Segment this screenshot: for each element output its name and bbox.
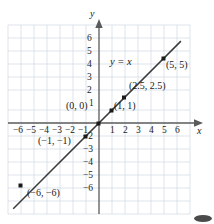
- x-tick-3: 3: [136, 126, 141, 136]
- data-point-two5: [122, 96, 126, 100]
- x-tick-neg6: −6: [13, 126, 23, 136]
- y-tick-5: 5: [87, 47, 92, 57]
- point-label-neg-one: (−1, −1): [38, 136, 71, 146]
- x-tick-1: 1: [110, 126, 115, 136]
- data-points: [19, 57, 166, 188]
- y-axis-label: y: [90, 9, 94, 19]
- x-tick-neg5: −5: [26, 126, 36, 136]
- point-label-one-one: (1, 1): [114, 101, 136, 111]
- data-point-neg6: [19, 184, 23, 188]
- y-tick-6: 6: [87, 34, 92, 44]
- y-tick-neg5: −5: [83, 171, 93, 181]
- point-label-origin: (0, 0): [66, 101, 88, 111]
- point-label-neg-six: (−6, −6): [27, 188, 60, 198]
- coordinate-plane-figure: 6 5 4 3 2 1 −2 −3 −4 −5 −6 −6 −5 −4 −3 −…: [0, 0, 214, 224]
- data-point-five: [162, 57, 166, 61]
- y-tick-4: 4: [87, 60, 92, 70]
- x-tick-2: 2: [123, 126, 128, 136]
- x-tick-6: 6: [175, 126, 180, 136]
- x-tick-5: 5: [162, 126, 167, 136]
- x-tick-4: 4: [149, 126, 154, 136]
- y-tick-neg3: −3: [83, 145, 93, 155]
- point-label-two-five: (2.5, 2.5): [129, 81, 166, 91]
- y-tick-2: 2: [87, 86, 92, 96]
- x-axis: [8, 119, 203, 126]
- data-point-one: [110, 109, 114, 113]
- x-axis-label: x: [197, 126, 201, 136]
- y-tick-neg6: −6: [83, 184, 93, 194]
- x-tick-neg1: −1: [78, 126, 88, 136]
- data-point-origin: [97, 122, 101, 126]
- y-tick-1: 1: [89, 99, 94, 109]
- page-corner-mark: [194, 215, 212, 222]
- equation-label: y = x: [110, 57, 132, 68]
- y-tick-neg4: −4: [83, 158, 93, 168]
- y-axis: [95, 19, 102, 214]
- point-label-five-five: (5, 5): [166, 60, 188, 70]
- y-tick-3: 3: [87, 73, 92, 83]
